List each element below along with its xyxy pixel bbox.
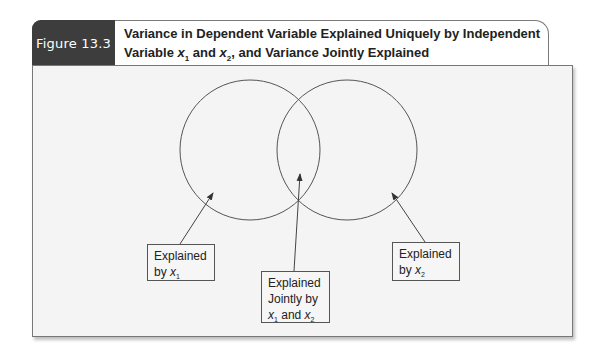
arrow-joint — [294, 174, 300, 271]
arrow-left — [180, 193, 213, 244]
arrow-right — [392, 193, 425, 242]
circle-x1 — [180, 80, 320, 220]
label-explained-jointly: Explained Jointly by x1 and x2 — [261, 271, 330, 323]
label-explained-x2: Explained by x2 — [392, 242, 460, 281]
label-explained-x1: Explained by x1 — [147, 244, 215, 281]
